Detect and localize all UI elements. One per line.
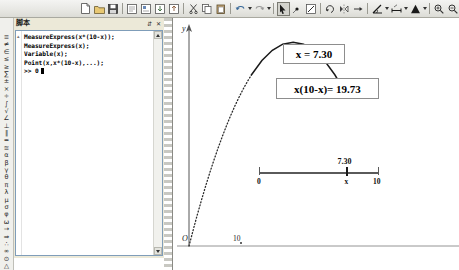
paste-icon[interactable] <box>215 2 228 16</box>
symbol-palette-item[interactable]: ∠ <box>0 115 13 122</box>
save-file-icon[interactable] <box>107 2 120 16</box>
symbol-palette-item[interactable]: γ <box>0 167 13 174</box>
toolbar-separator <box>122 3 123 14</box>
symbol-palette-item[interactable]: θ <box>0 174 13 181</box>
scroll-up-icon[interactable] <box>154 31 162 39</box>
script-vertical-scrollbar[interactable] <box>153 31 162 255</box>
y-axis-label: y <box>182 24 186 33</box>
script-dock-titlebar: 脚本 ⇵ ✕ <box>14 18 164 29</box>
scroll-down-icon[interactable] <box>154 247 162 255</box>
distance-constraint-icon[interactable] <box>390 2 403 16</box>
symbol-palette-item[interactable]: ≅ <box>0 145 13 152</box>
symbol-palette-item[interactable]: φ <box>0 211 13 218</box>
symbol-palette-item[interactable]: ≡ <box>0 34 13 41</box>
symbol-palette-item[interactable]: λ <box>0 189 13 196</box>
variable-slider[interactable]: 7.30 0 x 10 <box>253 154 385 190</box>
script-editor[interactable]: ▴ MeasureExpress(x*(10-x));MeasureExpres… <box>15 30 163 256</box>
symbol-palette-item[interactable]: σ <box>0 204 13 211</box>
symbol-palette-item[interactable]: ∴ <box>0 241 13 248</box>
symbol-palette-item[interactable]: ≤ <box>0 56 13 63</box>
symbol-palette-item[interactable]: ⊥ <box>0 123 13 130</box>
undo-icon[interactable] <box>234 2 247 16</box>
zoom-out-icon[interactable] <box>447 2 459 16</box>
annotation-icon[interactable] <box>409 2 422 16</box>
script-lines[interactable]: MeasureExpress(x*(10-x));MeasureExpress(… <box>22 31 153 255</box>
script-dock-title: 脚本 <box>16 18 30 29</box>
panel-divider[interactable] <box>164 18 172 270</box>
symbol-palette-item[interactable]: △ <box>0 263 13 270</box>
symbol-palette-item[interactable]: ∫ <box>0 101 13 108</box>
symbol-palette-item[interactable]: × <box>0 86 13 93</box>
script-line[interactable]: >> 0 <box>24 67 153 76</box>
script-line[interactable]: Point(x,x*(10-x),...); <box>24 59 153 68</box>
new-file-icon[interactable] <box>79 2 92 16</box>
point-tool-icon[interactable] <box>291 2 304 16</box>
annotation-dropdown-caret-icon[interactable] <box>422 2 427 16</box>
open-file-icon[interactable] <box>93 2 106 16</box>
slider-value-label: 7.30 <box>338 157 352 166</box>
symbol-palette-item[interactable]: → <box>0 226 13 233</box>
print-preview-icon[interactable] <box>126 2 139 16</box>
angle-dropdown-caret-icon[interactable] <box>384 2 389 16</box>
slider-handle[interactable] <box>346 167 348 176</box>
symbol-palette-item[interactable]: β <box>0 160 13 167</box>
zoom-in-icon[interactable] <box>433 2 446 16</box>
symbol-palette-item[interactable]: √ <box>0 108 13 115</box>
close-icon[interactable]: ✕ <box>155 20 162 27</box>
script-line[interactable]: Variable(x); <box>24 50 153 59</box>
slider-track[interactable] <box>259 172 379 174</box>
reflect-tool-icon[interactable] <box>338 2 351 16</box>
measurement-box-fx[interactable]: x(10-x)= 19.73 <box>276 78 379 99</box>
symbol-palette-item[interactable]: μ <box>0 197 13 204</box>
symbol-palette-item[interactable]: ∈ <box>0 49 13 56</box>
slider-variable-label: x <box>345 177 349 186</box>
toolbar-separator <box>273 3 274 14</box>
toolbar-separator <box>429 3 430 14</box>
toolbar-separator <box>183 3 184 14</box>
translate-tool-icon[interactable] <box>352 2 365 16</box>
export-icon[interactable] <box>154 2 167 16</box>
undo-dropdown-caret-icon[interactable] <box>247 2 252 16</box>
symbol-palette-item[interactable]: ∥ <box>0 130 13 137</box>
script-dock-panel: 脚本 ⇵ ✕ ▴ MeasureExpress(x*(10-x));Measur… <box>14 18 164 258</box>
angle-constraint-icon[interactable] <box>371 2 384 16</box>
x-tick-label-10: 10 <box>233 234 241 243</box>
slider-max-label: 10 <box>373 177 381 186</box>
slider-min-label: 0 <box>257 177 261 186</box>
symbol-palette-item[interactable]: ∞ <box>0 248 13 255</box>
slider-min-tick <box>259 167 260 175</box>
page-setup-icon[interactable] <box>140 2 153 16</box>
distance-dropdown-caret-icon[interactable] <box>403 2 408 16</box>
symbol-palette-item[interactable]: ≥ <box>0 64 13 71</box>
symbol-palette-item[interactable]: ± <box>0 78 13 85</box>
auto-hide-pin-icon[interactable]: ⇵ <box>146 20 153 27</box>
script-line[interactable]: MeasureExpress(x); <box>24 42 153 51</box>
script-line[interactable]: MeasureExpress(x*(10-x)); <box>24 33 153 42</box>
symbol-palette-item[interactable]: ⊙ <box>0 256 13 263</box>
symbol-palette-item[interactable]: ⇒ <box>0 234 13 241</box>
symbol-palette-item[interactable]: α <box>0 152 13 159</box>
rotate-tool-icon[interactable] <box>324 2 337 16</box>
text-cursor <box>41 68 44 74</box>
segment-tool-icon[interactable] <box>305 2 318 16</box>
symbol-palette-item[interactable]: ≠ <box>0 41 13 48</box>
symbol-palette-item[interactable]: ≃ <box>0 137 13 144</box>
toolbar-separator <box>230 3 231 14</box>
redo-dropdown-caret-icon[interactable] <box>266 2 271 16</box>
cut-icon[interactable] <box>187 2 200 16</box>
measurement-box-x[interactable]: x = 7.30 <box>283 44 345 64</box>
symbol-palette[interactable]: ≡≠∈≤≥∑±×÷∫√∠⊥∥≃≅αβγθπλμσφω→⇒∴∞⊙△□∠∆∇ <box>0 18 14 270</box>
symbol-palette-item[interactable]: π <box>0 182 13 189</box>
symbol-palette-item[interactable]: ÷ <box>0 93 13 100</box>
select-arrow-icon[interactable] <box>277 2 290 16</box>
slider-max-tick <box>378 167 379 175</box>
toolbar-separator <box>367 3 368 14</box>
redo-icon[interactable] <box>253 2 266 16</box>
main-toolbar: ? DrawByText <box>0 0 459 18</box>
toolbar-separator <box>320 3 321 14</box>
import-icon[interactable] <box>168 2 181 16</box>
copy-icon[interactable] <box>201 2 214 16</box>
graph-canvas[interactable]: y O 10 x = 7.30 x(10-x)= 19.73 7.30 0 x … <box>172 18 459 270</box>
symbol-palette-item[interactable]: ∑ <box>0 71 13 78</box>
symbol-palette-item[interactable]: ω <box>0 219 13 226</box>
